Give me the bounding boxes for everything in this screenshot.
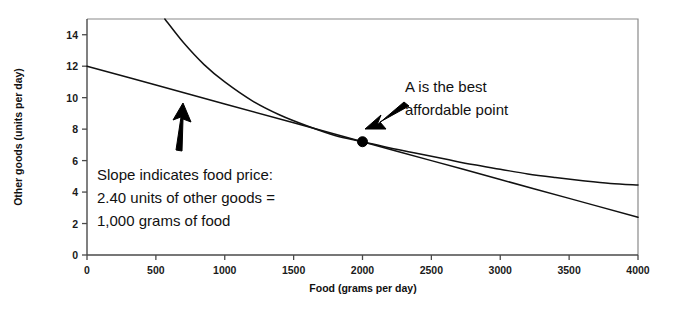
y-tick-label: 12 — [66, 60, 78, 72]
point-a-annotation-line-1: A is the best — [405, 78, 488, 95]
y-tick-label: 0 — [72, 249, 78, 261]
slope-annotation-line-2: 2.40 units of other goods = — [97, 189, 275, 206]
x-axis-title: Food (grams per day) — [309, 282, 416, 294]
x-tick-label: 1000 — [213, 264, 237, 276]
slope-annotation-line-3: 1,000 grams of food — [97, 212, 230, 229]
x-tick-label: 3000 — [489, 264, 513, 276]
slope-annotation-line-1: Slope indicates food price: — [97, 166, 273, 183]
x-tick-label: 1500 — [282, 264, 306, 276]
y-tick-label: 2 — [72, 218, 78, 230]
y-tick-label: 8 — [72, 123, 78, 135]
indifference-curve-chart: 02468101214 0500100015002000250030003500… — [0, 0, 681, 313]
x-tick-label: 500 — [147, 264, 165, 276]
y-axis-title: Other goods (units per day) — [12, 68, 24, 206]
y-tick-label: 4 — [72, 186, 78, 198]
point-a-marker — [358, 137, 368, 147]
point-a-annotation-line-2: affordable point — [405, 101, 509, 118]
y-tick-label: 14 — [66, 29, 78, 41]
chart-figure: 02468101214 0500100015002000250030003500… — [0, 0, 681, 313]
x-tick-label: 2500 — [420, 264, 444, 276]
y-tick-label: 10 — [66, 92, 78, 104]
x-tick-label: 2000 — [351, 264, 375, 276]
x-tick-label: 0 — [84, 264, 90, 276]
x-tick-label: 3500 — [557, 264, 581, 276]
y-tick-label: 6 — [72, 155, 78, 167]
x-tick-label: 4000 — [626, 264, 650, 276]
